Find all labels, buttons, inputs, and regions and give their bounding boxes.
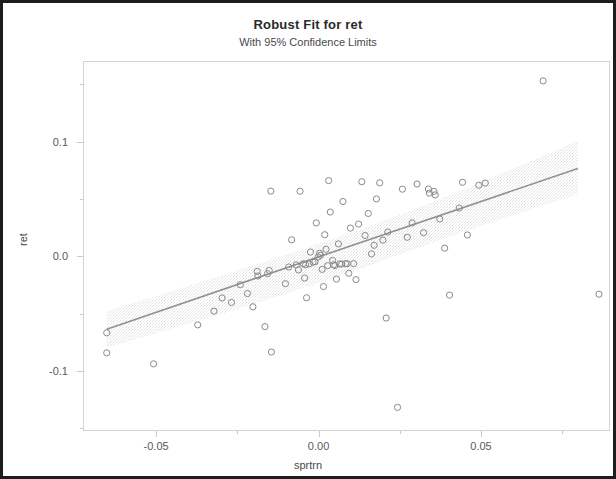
x-axis-tick (156, 431, 157, 437)
scatter-point (150, 361, 156, 367)
y-axis-title: ret (17, 233, 29, 246)
scatter-point (414, 181, 420, 187)
y-axis-tick-label: -0.1 (49, 365, 68, 377)
scatter-point (377, 180, 383, 186)
y-axis-tick (77, 371, 83, 372)
x-axis-tick-label: -0.05 (144, 440, 169, 452)
scatter-point (596, 291, 602, 297)
y-axis-minor-tick (80, 84, 83, 85)
scatter-point (365, 210, 371, 216)
scatter-point (459, 179, 465, 185)
plot-area (83, 61, 610, 431)
x-axis-minor-tick (400, 431, 401, 434)
scatter-point (353, 277, 359, 283)
scatter-point (297, 188, 303, 194)
confidence-band-area (107, 141, 578, 348)
figure-inner: Robust Fit for ret With 95% Confidence L… (3, 3, 613, 476)
scatter-point (442, 245, 448, 251)
scatter-point (268, 188, 274, 194)
scatter-point (540, 78, 546, 84)
robust-fit-line (107, 168, 578, 329)
x-axis-minor-tick (237, 431, 238, 434)
scatter-point (355, 221, 361, 227)
x-axis-tick-label: 0.00 (308, 440, 329, 452)
scatter-point (327, 209, 333, 215)
chart-title: Robust Fit for ret (3, 17, 613, 32)
scatter-point (340, 198, 346, 204)
scatter-point (373, 196, 379, 202)
confidence-band (107, 141, 578, 348)
x-axis-tick (481, 431, 482, 437)
scatter-point (446, 292, 452, 298)
chart-subtitle: With 95% Confidence Limits (3, 36, 613, 48)
scatter-point (262, 324, 268, 330)
y-axis-minor-tick (80, 428, 83, 429)
y-axis-minor-tick (80, 314, 83, 315)
y-axis-tick (77, 256, 83, 257)
scatter-point (303, 295, 309, 301)
scatter-point (104, 350, 110, 356)
fit-line-path (107, 168, 578, 329)
y-axis-tick-label: 0.1 (53, 136, 68, 148)
y-axis-tick-label: 0.0 (53, 250, 68, 262)
scatter-point (359, 179, 365, 185)
scatter-point (268, 349, 274, 355)
scatter-point (347, 225, 353, 231)
x-axis-tick (319, 431, 320, 437)
scatter-point (399, 186, 405, 192)
x-axis-title: sprtrn (3, 459, 613, 471)
scatter-point (313, 220, 319, 226)
scatter-point (383, 315, 389, 321)
robust-fit-chart-figure: Robust Fit for ret With 95% Confidence L… (0, 0, 616, 479)
scatter-point (333, 276, 339, 282)
y-axis-tick (77, 142, 83, 143)
scatter-point (250, 304, 256, 310)
y-axis-minor-tick (80, 199, 83, 200)
scatter-point (394, 404, 400, 410)
x-axis-tick-label: 0.05 (470, 440, 491, 452)
scatter-point (464, 232, 470, 238)
scatter-point (326, 177, 332, 183)
scatter-point (320, 283, 326, 289)
scatter-point (195, 322, 201, 328)
scatter-point (322, 232, 328, 238)
scatter-point (289, 237, 295, 243)
x-axis-minor-tick (562, 431, 563, 434)
plot-canvas (84, 62, 610, 431)
